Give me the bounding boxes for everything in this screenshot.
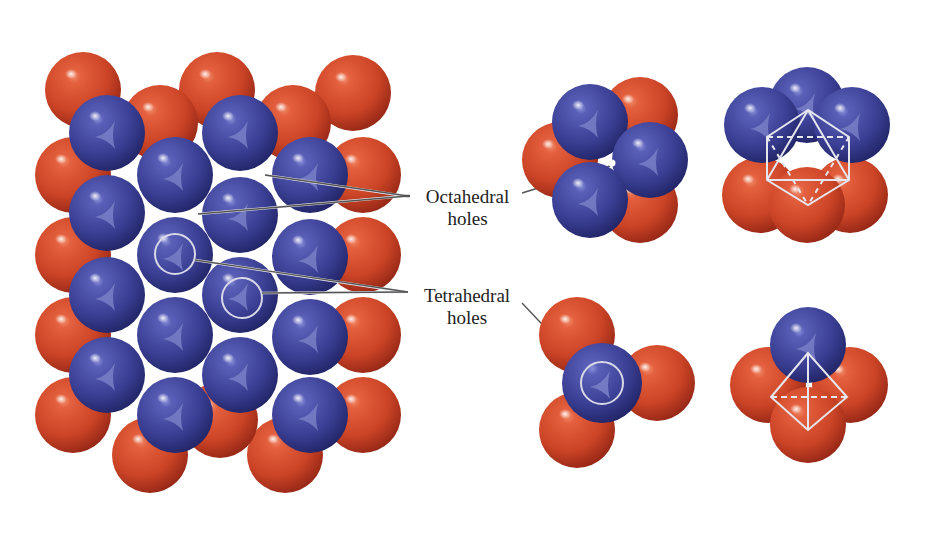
diagram-canvas [0,0,933,535]
octahedral-top-view [522,77,688,243]
tetrahedral-side-view [730,307,888,463]
tetrahedral-label-line1: Tetrahedral [408,285,526,307]
octahedral-label-line2: holes [410,208,525,230]
octahedral-label-line1: Octahedral [410,186,525,208]
octahedral-holes-label: Octahedral holes [410,186,525,230]
blue-layer [69,95,348,453]
octahedral-side-view [722,67,890,243]
tetrahedral-holes-label: Tetrahedral holes [408,285,526,329]
tetrahedral-label-line2: holes [408,307,526,329]
tetrahedral-top-view [539,297,695,468]
